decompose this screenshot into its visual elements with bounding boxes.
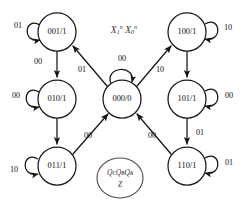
self-loop-label-100: 10 — [224, 23, 232, 32]
edge-label-110-to-000: 00 — [148, 131, 156, 140]
self-loop-label-000: 00 — [118, 54, 126, 63]
edge-label-000-to-001: 01 — [78, 65, 86, 74]
state-label-000: 000/0 — [112, 94, 131, 103]
state-node-010[interactable]: 010/1 — [38, 80, 76, 118]
state-label-101: 101/1 — [177, 94, 196, 103]
state-transition-diagram: 001/1 010/1 011/1 000/0 100/1 101/1 110/… — [0, 0, 244, 211]
state-node-101[interactable]: 101/1 — [168, 80, 206, 118]
svg-text:X1nX0n: X1nX0n — [110, 24, 137, 35]
diagram-canvas: 001/1 010/1 011/1 000/0 100/1 101/1 110/… — [0, 0, 244, 211]
self-loop-010 — [26, 90, 39, 107]
self-loop-011 — [25, 157, 38, 174]
self-loop-label-011: 10 — [10, 165, 18, 174]
edge-label-000-to-100: 10 — [156, 65, 164, 74]
self-loop-101 — [205, 89, 218, 106]
self-loop-label-110: 01 — [225, 158, 233, 167]
self-loop-110 — [205, 156, 218, 173]
state-label-010: 010/1 — [47, 94, 66, 103]
edge-label-001-to-010: 00 — [34, 57, 42, 66]
state-node-000[interactable]: 000/0 — [103, 80, 141, 118]
state-label-001: 001/1 — [47, 27, 66, 36]
state-node-011[interactable]: 011/1 — [38, 147, 76, 185]
self-loop-label-010: 00 — [12, 91, 20, 100]
state-node-100[interactable]: 100/1 — [168, 13, 206, 51]
input-caption-x0-sup: n — [134, 24, 137, 30]
edge-label-011-to-000: 00 — [84, 131, 92, 140]
input-variable-caption: X1nX0n — [110, 24, 137, 35]
edge-000-to-100 — [137, 46, 171, 86]
self-loop-label-001: 01 — [14, 21, 22, 30]
self-loop-100 — [205, 22, 218, 39]
edge-label-101-to-110: 01 — [196, 128, 204, 137]
state-node-001[interactable]: 001/1 — [38, 13, 76, 51]
input-caption-x1-sub: 1 — [117, 30, 120, 36]
legend-state-encoding: QᴄQʙQᴀ — [107, 168, 134, 177]
input-caption-x0-sub: 0 — [131, 30, 134, 36]
self-loop-label-101: 00 — [225, 91, 233, 100]
figure-caption — [0, 202, 244, 211]
state-label-011: 011/1 — [48, 161, 67, 170]
state-label-110: 110/1 — [178, 161, 197, 170]
state-label-100: 100/1 — [177, 27, 196, 36]
legend-node: QᴄQʙQᴀ Z — [97, 158, 143, 198]
input-caption-x1-sup: n — [120, 24, 123, 30]
state-node-110[interactable]: 110/1 — [168, 147, 206, 185]
